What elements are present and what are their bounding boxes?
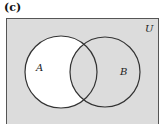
universe-label: U [145, 23, 154, 34]
set-b-label: B [119, 66, 127, 77]
venn-diagram: A B U [0, 0, 161, 124]
set-a-label: A [35, 62, 43, 73]
